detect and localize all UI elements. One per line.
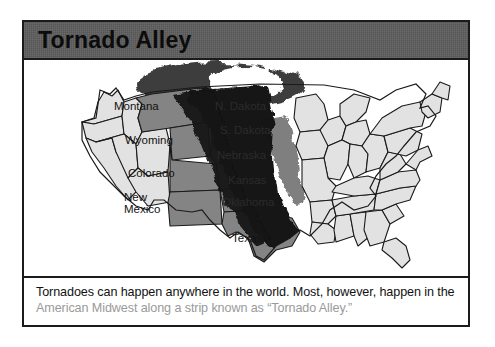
state-florida <box>382 238 410 268</box>
state-arkansas <box>310 200 336 224</box>
caption-text: Tornadoes can happen anywhere in the wor… <box>36 284 456 316</box>
caption-lead: Tornadoes can happen anywhere in the wor… <box>36 285 454 299</box>
caption-box: Tornadoes can happen anywhere in the wor… <box>24 276 468 325</box>
map-area: Montana N. Dakota S. Dakota Wyoming Nebr… <box>24 60 468 276</box>
screenshot-root: Tornado Alley <box>0 0 495 347</box>
state-utah <box>136 128 170 176</box>
state-illinois <box>324 140 350 180</box>
title-banner: Tornado Alley <box>24 22 468 60</box>
state-new-mexico <box>168 190 222 226</box>
us-map-svg <box>24 60 468 276</box>
tornado-alley-card: Tornado Alley <box>22 20 470 327</box>
page-title: Tornado Alley <box>38 27 191 54</box>
state-louisiana <box>310 222 336 244</box>
caption-emphasis: American Midwest along a strip known as … <box>36 301 352 315</box>
